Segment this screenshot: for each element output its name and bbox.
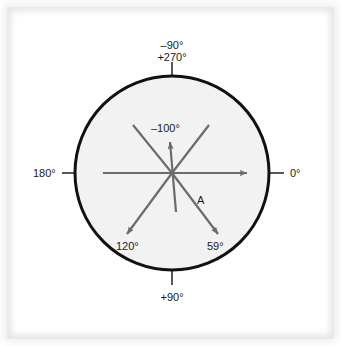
label-top-minus90: –90° [146,39,198,51]
label-vector-a: A [197,194,204,206]
label-right-0: 0° [290,167,301,179]
label-top-plus270: +270° [146,51,198,63]
label-ray-minus100: –100° [151,122,180,134]
label-bottom-plus90: +90° [146,291,198,303]
label-left-180: 180° [33,167,56,179]
label-ray-59: 59° [207,240,224,252]
label-ray-120: 120° [116,240,139,252]
figure-page: –90° +270° +90° 180° 0° –100° 120° 59° A [0,0,341,346]
